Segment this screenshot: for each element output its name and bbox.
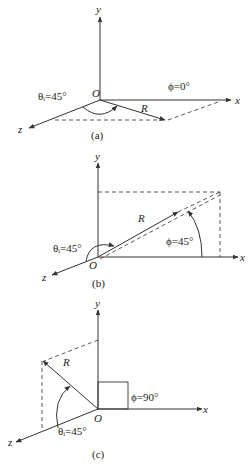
phi-label: ϕ=0° [168,80,190,92]
vector-label: R [137,212,145,224]
right-angle-marker [98,382,128,409]
origin-label: O [94,412,102,424]
projection-dash [168,102,218,120]
r-vector [100,100,165,120]
theta-label: θᵢ=45° [38,90,67,102]
vector-label: R [140,102,148,114]
diagram-canvas: y x z O R θᵢ=45° ϕ=0° (a) y x z O R θᵢ=4… [0,0,250,467]
z-axis-label: z [7,436,13,448]
x-axis-label: x [234,94,240,106]
z-axis [29,100,100,128]
theta-arc [83,106,117,114]
origin-label: O [89,259,97,271]
theta-arc [57,386,71,428]
figure-caption: (b) [92,277,105,290]
x-axis-label: x [202,403,208,415]
figure-caption: (c) [92,448,105,461]
z-axis-label: z [41,271,47,283]
theta-label: θᵢ=45° [58,425,87,437]
phi-label: ϕ=90° [131,391,158,403]
phi-label: ϕ=45° [166,235,193,247]
z-axis-label: z [17,123,23,135]
projection-dash [178,192,220,212]
origin-label: O [92,87,100,99]
r-vector [43,361,98,409]
y-axis-label: y [94,297,100,309]
figure-a: y x z O R θᵢ=45° ϕ=0° (a) [17,3,240,142]
vector-label: R [62,356,70,368]
y-axis-label: y [94,150,100,162]
figure-b: y x z O R θᵢ=45° ϕ=45° (b) [41,150,245,290]
projection-dash [44,340,98,361]
theta-label: θᵢ=45° [53,242,82,254]
phi-arc [188,211,202,257]
figure-c: y x z O R θᵢ=45° ϕ=90° (c) [7,297,208,461]
figure-caption: (a) [91,129,104,142]
x-axis-label: x [239,251,245,263]
y-axis-label: y [95,3,101,15]
